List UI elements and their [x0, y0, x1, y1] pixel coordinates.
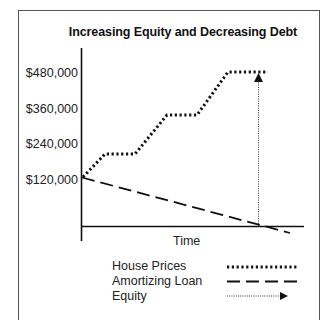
equity-arrowhead-icon — [254, 73, 263, 82]
legend-equity-arrowhead-icon — [280, 292, 288, 300]
series-house-prices — [83, 72, 268, 177]
